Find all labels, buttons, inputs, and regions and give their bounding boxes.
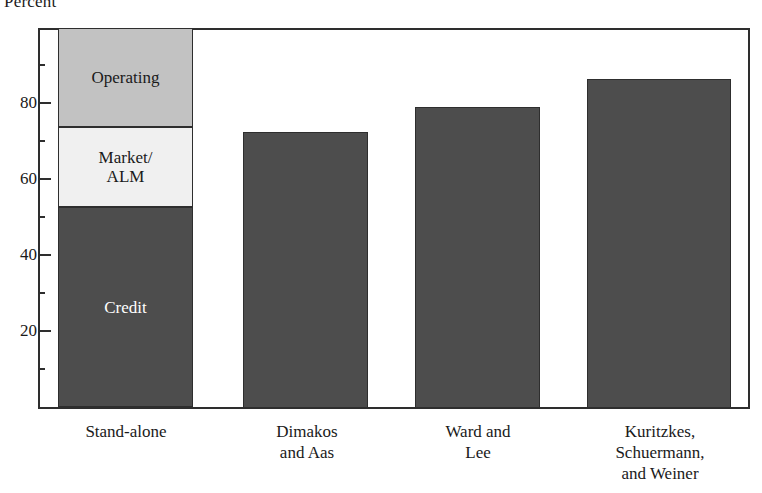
- y-tick-minor-50: [38, 216, 45, 218]
- y-tick-label-60: 60: [5, 170, 37, 187]
- y-tick-major-60: [38, 178, 51, 180]
- x-category-line: Stand-alone: [40, 421, 212, 442]
- y-tick-label-40: 40: [5, 246, 37, 263]
- x-category-line: Kuritzkes,: [570, 421, 750, 442]
- y-tick-major-20: [38, 330, 51, 332]
- bar-segment-market-alm-label-line2: ALM: [107, 167, 145, 186]
- y-tick-minor-30: [38, 292, 45, 294]
- x-category-line: Lee: [395, 442, 561, 463]
- y-tick-minor-90: [38, 64, 45, 66]
- bar-segment-credit[interactable]: Credit: [58, 207, 193, 407]
- y-tick-major-80: [38, 102, 51, 104]
- x-category-line: and Weiner: [570, 463, 750, 484]
- axis-line-left: [38, 28, 40, 409]
- x-category-label-dimakos-and-aas: Dimakos and Aas: [222, 421, 392, 463]
- bar-stand-alone[interactable]: Operating Market/ ALM Credit: [58, 28, 193, 407]
- y-tick-label-20: 20: [5, 322, 37, 339]
- y-tick-minor-10: [38, 368, 45, 370]
- bar-ward-and-lee[interactable]: [415, 107, 540, 408]
- x-category-line: and Aas: [222, 442, 392, 463]
- x-category-label-stand-alone: Stand-alone: [40, 421, 212, 442]
- x-category-line: Schuermann,: [570, 442, 750, 463]
- x-category-label-ward-and-lee: Ward and Lee: [395, 421, 561, 463]
- bar-segment-operating-label: Operating: [92, 68, 160, 87]
- x-category-label-kuritzkes-schuermann-weiner: Kuritzkes, Schuermann, and Weiner: [570, 421, 750, 484]
- axis-line-right: [748, 28, 750, 409]
- y-axis-title: Percent: [4, 0, 56, 10]
- bar-segment-credit-label: Credit: [104, 298, 147, 317]
- bar-dimakos-and-aas[interactable]: [243, 132, 368, 408]
- bar-segment-market-alm[interactable]: Market/ ALM: [58, 127, 193, 207]
- bar-segment-market-alm-label-line1: Market/: [99, 148, 153, 167]
- y-tick-major-40: [38, 254, 51, 256]
- bar-kuritzkes-schuermann-weiner[interactable]: [587, 79, 731, 408]
- x-category-line: Dimakos: [222, 421, 392, 442]
- y-tick-minor-70: [38, 140, 45, 142]
- y-tick-label-80: 80: [5, 94, 37, 111]
- x-category-line: Ward and: [395, 421, 561, 442]
- bar-segment-operating[interactable]: Operating: [58, 28, 193, 127]
